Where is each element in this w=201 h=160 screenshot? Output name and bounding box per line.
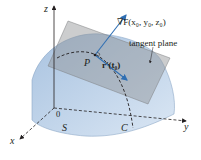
surface-label: S: [62, 122, 67, 133]
origin-label: 0: [56, 109, 60, 119]
surface-tangent-plane-diagram: z x y 0 S C P r′(t₀) ∇F(x₀, y₀, z₀) tang…: [0, 0, 201, 160]
x-axis-label: x: [9, 135, 15, 146]
gradient-label: ∇F(x₀, y₀, z₀): [117, 17, 166, 27]
curve-label: C: [121, 122, 128, 133]
y-axis-label: y: [183, 121, 189, 132]
point-label: P: [83, 57, 90, 68]
tangent-vector-label: r′(t₀): [102, 60, 120, 70]
z-axis-label: z: [43, 3, 48, 14]
tangent-plane-label: tangent plane: [129, 38, 177, 48]
point-p: [94, 54, 97, 57]
